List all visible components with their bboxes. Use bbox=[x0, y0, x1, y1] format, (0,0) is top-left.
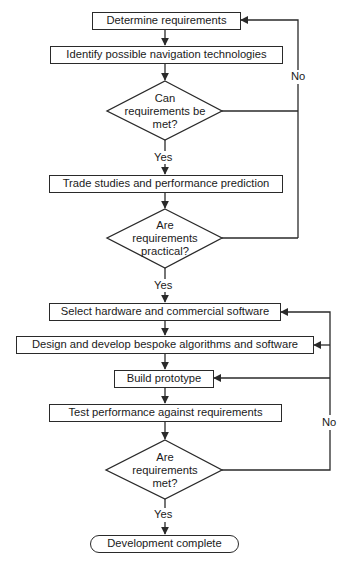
decision-3-label: Are requirements met? bbox=[132, 451, 197, 490]
step-design-develop-algorithms: Design and develop bespoke algorithms an… bbox=[16, 336, 314, 354]
decision-line: met? bbox=[125, 118, 206, 131]
step-label: Identify possible navigation technologie… bbox=[66, 49, 266, 60]
no-label-upper: No bbox=[291, 71, 305, 82]
decision-1-label: Can requirements be met? bbox=[125, 92, 206, 131]
terminal-development-complete: Development complete bbox=[90, 535, 239, 553]
step-select-hardware: Select hardware and commercial software bbox=[49, 303, 281, 321]
yes-label-2: Yes bbox=[154, 280, 172, 291]
decision-line: Can bbox=[125, 92, 206, 105]
arrow-lower-no-s4 bbox=[281, 312, 330, 415]
step-identify-navigation-technologies: Identify possible navigation technologie… bbox=[50, 46, 283, 64]
decision-line: met? bbox=[132, 477, 197, 490]
yes-label-1: Yes bbox=[154, 152, 172, 163]
decision-line: Are bbox=[132, 219, 197, 232]
step-determine-requirements: Determine requirements bbox=[92, 12, 241, 30]
step-label: Select hardware and commercial software bbox=[61, 306, 269, 317]
decision-line: requirements bbox=[132, 464, 197, 477]
step-label: Test performance against requirements bbox=[68, 407, 262, 418]
decision-2-label: Are requirements practical? bbox=[132, 219, 197, 258]
decision-line: requirements bbox=[132, 232, 197, 245]
step-label: Design and develop bespoke algorithms an… bbox=[32, 339, 298, 350]
step-label: Development complete bbox=[107, 538, 221, 549]
step-label: Trade studies and performance prediction bbox=[63, 178, 270, 189]
step-trade-studies: Trade studies and performance prediction bbox=[49, 175, 283, 193]
decision-line: practical? bbox=[132, 245, 197, 258]
step-label: Build prototype bbox=[127, 373, 202, 384]
yes-label-3: Yes bbox=[154, 509, 172, 520]
step-build-prototype: Build prototype bbox=[114, 370, 214, 388]
step-label: Determine requirements bbox=[106, 15, 226, 26]
decision-line: Are bbox=[132, 451, 197, 464]
step-test-performance: Test performance against requirements bbox=[49, 404, 282, 422]
decision-line: requirements be bbox=[125, 105, 206, 118]
no-label-lower: No bbox=[322, 417, 336, 428]
